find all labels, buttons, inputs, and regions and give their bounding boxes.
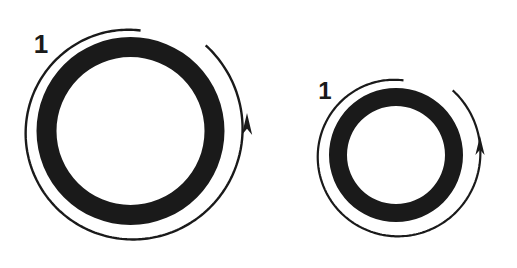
large-ring-band bbox=[36, 37, 224, 225]
large-ring-group: 1 bbox=[26, 29, 253, 240]
figure-canvas: 1 1 bbox=[0, 0, 517, 268]
small-ring-label: 1 bbox=[318, 77, 331, 104]
large-ring-label: 1 bbox=[34, 29, 48, 59]
small-ring-group: 1 bbox=[318, 77, 485, 236]
small-ring-band bbox=[329, 88, 463, 222]
ring-diagram-svg: 1 1 bbox=[0, 0, 517, 268]
